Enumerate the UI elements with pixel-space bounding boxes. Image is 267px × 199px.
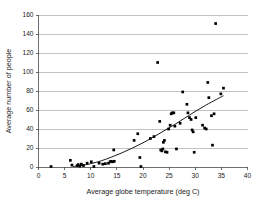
- chart-canvas: 0510152025303540 020406080100120140160 A…: [0, 0, 267, 199]
- data-point: [112, 149, 115, 152]
- data-point: [213, 112, 216, 115]
- data-point: [187, 112, 190, 115]
- data-point: [214, 22, 217, 25]
- y-tick-label: 20: [26, 144, 34, 151]
- data-point: [163, 139, 166, 142]
- data-point: [190, 118, 193, 121]
- x-tick-label: 20: [139, 172, 147, 179]
- data-point: [156, 61, 159, 64]
- data-point: [181, 91, 184, 94]
- data-point: [194, 116, 197, 119]
- data-point: [113, 160, 116, 163]
- data-point: [104, 162, 107, 165]
- data-point: [71, 164, 74, 167]
- x-tick-label: 5: [63, 172, 67, 179]
- scatter-plot-figure: 0510152025303540 020406080100120140160 A…: [0, 0, 267, 199]
- data-point: [220, 93, 223, 96]
- y-tick-label: 60: [26, 106, 34, 113]
- x-tick-label: 40: [244, 172, 252, 179]
- data-point: [136, 132, 139, 135]
- data-point: [193, 151, 196, 154]
- y-axis-title: Average number of people: [4, 49, 13, 134]
- data-point: [162, 148, 165, 151]
- y-tick-label: 120: [22, 49, 33, 56]
- data-point: [93, 165, 96, 168]
- y-tick-label: 40: [26, 125, 34, 132]
- data-point: [140, 165, 143, 168]
- data-point: [98, 162, 101, 165]
- x-tick-label: 0: [37, 172, 41, 179]
- data-point: [179, 122, 182, 125]
- data-point: [206, 81, 209, 84]
- data-point: [192, 131, 195, 134]
- data-point: [50, 165, 53, 168]
- data-point: [166, 151, 169, 154]
- data-point: [101, 163, 104, 166]
- data-point: [207, 96, 210, 99]
- data-point: [222, 87, 225, 90]
- data-point: [186, 103, 189, 106]
- y-tick-label: 0: [30, 163, 34, 170]
- x-tick-label: 15: [113, 172, 121, 179]
- data-point: [90, 160, 93, 163]
- data-point: [158, 120, 161, 123]
- y-tick-label: 160: [22, 11, 33, 18]
- data-point: [210, 114, 213, 117]
- data-point: [201, 124, 204, 127]
- y-tick-label: 100: [22, 68, 33, 75]
- plot-background: [0, 0, 267, 199]
- y-tick-label: 80: [26, 87, 34, 94]
- y-tick-label: 140: [22, 30, 33, 37]
- data-point: [139, 156, 142, 159]
- data-point: [175, 148, 178, 151]
- x-axis-title: Average globe temperature (deg C): [87, 187, 200, 196]
- data-point: [205, 128, 208, 131]
- x-tick-label: 25: [165, 172, 173, 179]
- x-tick-label: 10: [87, 172, 95, 179]
- x-tick-label: 30: [192, 172, 200, 179]
- data-point: [69, 159, 72, 162]
- data-point: [133, 139, 136, 142]
- data-point: [211, 144, 214, 147]
- data-point: [172, 112, 175, 115]
- x-tick-label: 35: [218, 172, 226, 179]
